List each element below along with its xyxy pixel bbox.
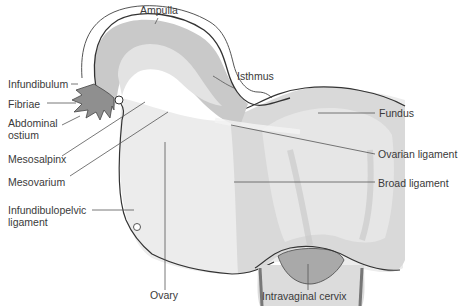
- abdominal-ostium-shape: [115, 96, 123, 104]
- label-infundibulopelvic-line1: Infundibulopelvic: [8, 204, 86, 216]
- label-mesosalpinx: Mesosalpinx: [8, 153, 66, 165]
- label-fundus: Fundus: [379, 107, 414, 119]
- label-isthmus: Isthmus: [237, 70, 274, 82]
- label-intravaginal-cervix: Intravaginal cervix: [262, 290, 347, 302]
- vagina-wall-right: [360, 268, 362, 306]
- label-ampulla: Ampulla: [140, 4, 178, 16]
- label-fibriae: Fibriae: [8, 98, 40, 110]
- label-infundibulopelvic-line2: ligament: [8, 216, 48, 228]
- infundibulopelvic-node: [134, 224, 141, 231]
- label-ovarian-ligament: Ovarian ligament: [378, 148, 457, 160]
- label-broad-ligament: Broad ligament: [378, 177, 449, 189]
- anatomy-diagram: Ampulla Isthmus Infundibulum Fibriae Abd…: [0, 0, 462, 306]
- label-abdominal-ostium-line1: Abdominal: [8, 117, 58, 129]
- label-infundibulum: Infundibulum: [8, 78, 68, 90]
- label-mesovarium: Mesovarium: [8, 176, 65, 188]
- label-ovary: Ovary: [150, 289, 178, 301]
- label-abdominal-ostium-line2: ostium: [8, 129, 39, 141]
- leader-abdominal-ostium: [62, 116, 80, 125]
